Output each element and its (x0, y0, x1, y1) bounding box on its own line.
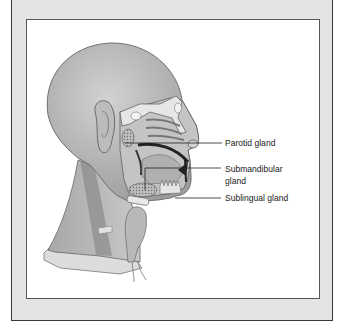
label-submandibular-gland-line1: Submandibular (225, 163, 283, 175)
parotid-gland-shape (122, 129, 134, 147)
submandibular-gland-shape (129, 183, 157, 197)
head-illustration (0, 0, 341, 324)
larynx (125, 207, 146, 262)
label-submandibular-gland-line2: gland (225, 175, 246, 187)
label-parotid-gland: Parotid gland (225, 137, 275, 149)
label-sublingual-gland: Sublingual gland (225, 192, 288, 204)
